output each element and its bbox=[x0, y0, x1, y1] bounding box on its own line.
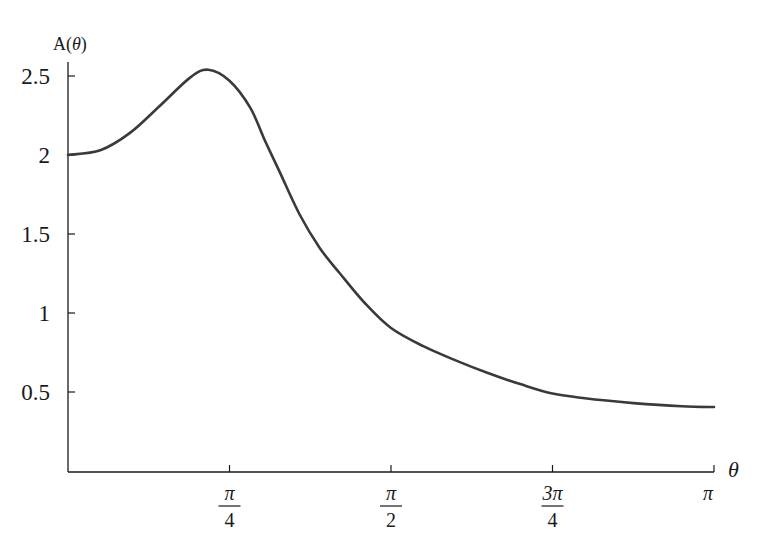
axes bbox=[68, 62, 714, 472]
y-axis-label: A(θ) bbox=[53, 34, 87, 55]
x-tick-label: π bbox=[703, 482, 714, 504]
y-tick-label: 1 bbox=[39, 301, 51, 326]
y-tick-label: 2 bbox=[39, 143, 51, 168]
x-tick-numerator: π bbox=[386, 482, 397, 504]
x-axis-label: θ bbox=[728, 457, 739, 482]
x-tick-numerator: 3π bbox=[541, 482, 563, 504]
x-ticks: π4π23π4π bbox=[219, 465, 715, 531]
x-tick-denominator: 4 bbox=[548, 509, 558, 531]
y-ticks: 0.511.522.5 bbox=[21, 64, 75, 405]
x-tick-denominator: 4 bbox=[225, 509, 235, 531]
data-series-line bbox=[68, 70, 714, 407]
y-tick-label: 2.5 bbox=[21, 64, 50, 89]
y-tick-label: 1.5 bbox=[21, 222, 50, 247]
chart-canvas: 0.511.522.5 π4π23π4π A(θ) θ bbox=[0, 0, 765, 542]
y-tick-label: 0.5 bbox=[21, 380, 50, 405]
x-tick-denominator: 2 bbox=[386, 509, 396, 531]
x-tick-numerator: π bbox=[224, 482, 235, 504]
